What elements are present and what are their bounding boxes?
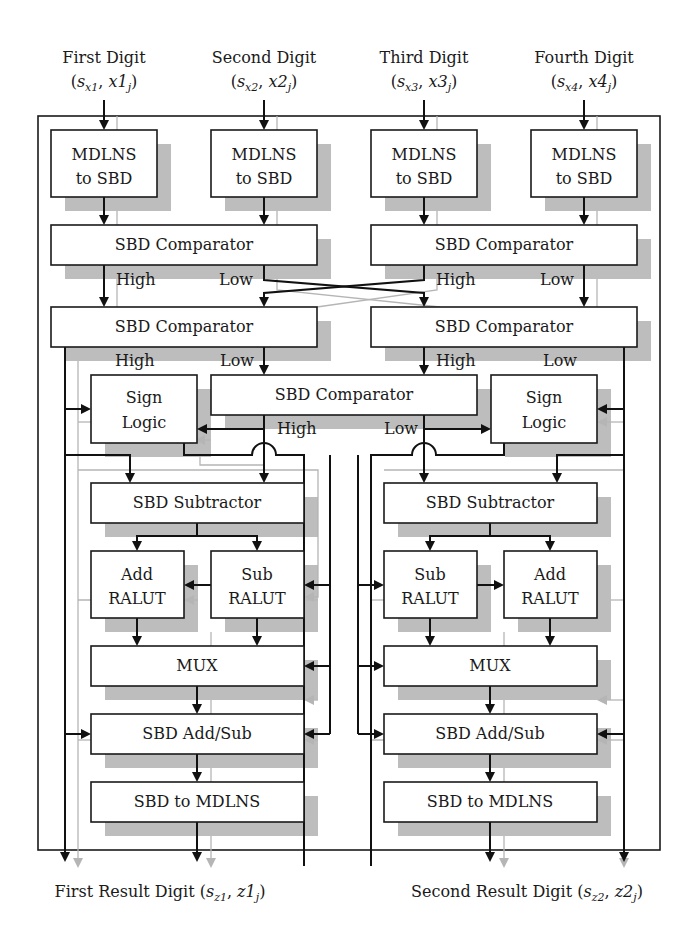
sbd-to-mdlns-left: SBD to MDLNS bbox=[91, 782, 304, 822]
svg-text:Third Digit: Third Digit bbox=[380, 48, 469, 67]
svg-text:SBD Comparator: SBD Comparator bbox=[435, 235, 574, 254]
output-second-result-digit: Second Result Digit (sz2, z2j) bbox=[411, 882, 643, 904]
svg-text:to SBD: to SBD bbox=[396, 169, 453, 188]
svg-text:Low: Low bbox=[540, 270, 574, 289]
svg-text:MDLNS: MDLNS bbox=[232, 145, 297, 164]
svg-text:MUX: MUX bbox=[176, 656, 218, 675]
svg-text:SBD Add/Sub: SBD Add/Sub bbox=[142, 724, 252, 743]
svg-text:MUX: MUX bbox=[469, 656, 511, 675]
svg-text:Second Digit: Second Digit bbox=[212, 48, 317, 67]
svg-text:SBD Subtractor: SBD Subtractor bbox=[133, 493, 262, 512]
svg-text:SBD Comparator: SBD Comparator bbox=[435, 317, 574, 336]
mdlns-to-sbd-3: MDLNS to SBD bbox=[371, 130, 477, 197]
svg-text:SBD Comparator: SBD Comparator bbox=[275, 385, 414, 404]
svg-text:SBD to MDLNS: SBD to MDLNS bbox=[134, 792, 261, 811]
svg-text:RALUT: RALUT bbox=[228, 589, 286, 608]
sbd-comparator-row2-left: SBD Comparator bbox=[51, 307, 317, 347]
svg-text:High: High bbox=[436, 270, 476, 289]
add-ralut-left: Add RALUT bbox=[91, 551, 184, 618]
sbd-add-sub-right: SBD Add/Sub bbox=[384, 714, 597, 754]
svg-text:to SBD: to SBD bbox=[236, 169, 293, 188]
svg-text:Low: Low bbox=[543, 351, 577, 370]
mux-left: MUX bbox=[91, 646, 304, 686]
svg-text:RALUT: RALUT bbox=[401, 589, 459, 608]
sbd-subtractor-left: SBD Subtractor bbox=[91, 483, 304, 523]
svg-text:(sx1, x1j): (sx1, x1j) bbox=[71, 72, 138, 94]
svg-text:MDLNS: MDLNS bbox=[72, 145, 137, 164]
mux-right: MUX bbox=[384, 646, 597, 686]
svg-text:MDLNS: MDLNS bbox=[552, 145, 617, 164]
sbd-comparator-row2-right: SBD Comparator bbox=[371, 307, 637, 347]
svg-text:Logic: Logic bbox=[122, 413, 167, 432]
input-third-digit: Third Digit (sx3, x3j) bbox=[380, 48, 469, 94]
sbd-comparator-middle: SBD Comparator bbox=[211, 375, 477, 415]
input-second-digit: Second Digit (sx2, x2j) bbox=[212, 48, 317, 94]
sbd-add-sub-left: SBD Add/Sub bbox=[91, 714, 304, 754]
svg-text:RALUT: RALUT bbox=[521, 589, 579, 608]
sbd-comparator-row1-left: SBD Comparator bbox=[51, 225, 317, 265]
svg-text:Low: Low bbox=[384, 419, 418, 438]
svg-text:to SBD: to SBD bbox=[76, 169, 133, 188]
svg-text:High: High bbox=[436, 351, 476, 370]
mdlns-sorter-block-diagram: First Digit (sx1, x1j) Second Digit (sx2… bbox=[0, 0, 698, 946]
svg-text:Low: Low bbox=[219, 270, 253, 289]
svg-text:First Digit: First Digit bbox=[62, 48, 146, 67]
add-ralut-right: Add RALUT bbox=[504, 551, 597, 618]
svg-text:Add: Add bbox=[533, 565, 566, 584]
svg-text:SBD Comparator: SBD Comparator bbox=[115, 235, 254, 254]
svg-text:Add: Add bbox=[120, 565, 153, 584]
svg-text:Fourth Digit: Fourth Digit bbox=[534, 48, 634, 67]
sub-ralut-left: Sub RALUT bbox=[211, 551, 304, 618]
sign-logic-left: Sign Logic bbox=[91, 375, 197, 443]
output-labels: First Result Digit (sz1, z1j) Second Res… bbox=[55, 882, 643, 904]
svg-text:Sub: Sub bbox=[414, 565, 446, 584]
svg-text:(sx4, x4j): (sx4, x4j) bbox=[551, 72, 618, 94]
svg-text:Sub: Sub bbox=[241, 565, 273, 584]
svg-text:Low: Low bbox=[220, 351, 254, 370]
svg-text:High: High bbox=[277, 419, 317, 438]
mdlns-to-sbd-4: MDLNS to SBD bbox=[531, 130, 637, 197]
svg-text:High: High bbox=[115, 351, 155, 370]
sbd-subtractor-right: SBD Subtractor bbox=[384, 483, 597, 523]
input-labels: First Digit (sx1, x1j) Second Digit (sx2… bbox=[62, 48, 634, 94]
svg-text:Logic: Logic bbox=[522, 413, 567, 432]
input-first-digit: First Digit (sx1, x1j) bbox=[62, 48, 146, 94]
svg-text:MDLNS: MDLNS bbox=[392, 145, 457, 164]
svg-text:SBD to MDLNS: SBD to MDLNS bbox=[427, 792, 554, 811]
sign-logic-right: Sign Logic bbox=[491, 375, 597, 443]
sbd-to-mdlns-right: SBD to MDLNS bbox=[384, 782, 597, 822]
input-fourth-digit: Fourth Digit (sx4, x4j) bbox=[534, 48, 634, 94]
output-first-result-digit: First Result Digit (sz1, z1j) bbox=[55, 882, 266, 904]
mdlns-to-sbd-1: MDLNS to SBD bbox=[51, 130, 157, 197]
svg-text:SBD Add/Sub: SBD Add/Sub bbox=[435, 724, 545, 743]
svg-text:SBD Comparator: SBD Comparator bbox=[115, 317, 254, 336]
svg-text:Sign: Sign bbox=[526, 388, 563, 407]
sbd-comparator-row1-right: SBD Comparator bbox=[371, 225, 637, 265]
sub-ralut-right: Sub RALUT bbox=[384, 551, 477, 618]
mdlns-to-sbd-2: MDLNS to SBD bbox=[211, 130, 317, 197]
svg-text:Sign: Sign bbox=[126, 388, 163, 407]
svg-text:High: High bbox=[116, 270, 156, 289]
svg-text:RALUT: RALUT bbox=[108, 589, 166, 608]
svg-text:to SBD: to SBD bbox=[556, 169, 613, 188]
svg-text:(sx2, x2j): (sx2, x2j) bbox=[231, 72, 298, 94]
svg-text:(sx3, x3j): (sx3, x3j) bbox=[391, 72, 458, 94]
svg-text:SBD Subtractor: SBD Subtractor bbox=[426, 493, 555, 512]
